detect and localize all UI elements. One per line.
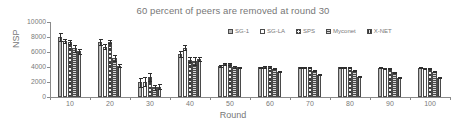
bar[interactable] — [428, 68, 432, 97]
bar[interactable] — [298, 67, 302, 97]
bar[interactable] — [308, 68, 312, 97]
error-bar — [140, 78, 141, 87]
bar[interactable] — [268, 67, 272, 97]
bar[interactable] — [232, 67, 236, 97]
chart-title: 60 percent of peers are removed at round… — [0, 5, 466, 16]
legend-item[interactable]: Myconet — [326, 28, 356, 34]
error-bar-cap — [73, 45, 77, 46]
error-bar-cap — [68, 40, 72, 41]
x-tick-label: 60 — [255, 100, 285, 107]
legend-swatch-icon — [296, 29, 301, 34]
x-tick-label: 90 — [375, 100, 405, 107]
legend-label: SG-LA — [267, 28, 285, 34]
error-bar-cap — [68, 44, 72, 45]
bar[interactable] — [237, 67, 241, 97]
bar[interactable] — [188, 60, 192, 98]
bar[interactable] — [117, 66, 121, 98]
bar[interactable] — [218, 66, 222, 97]
bar[interactable] — [183, 48, 187, 98]
bar[interactable] — [432, 72, 436, 97]
x-axis-tick — [370, 97, 371, 100]
bar[interactable] — [178, 54, 182, 98]
bar-group: 20 — [98, 22, 122, 97]
legend-item[interactable]: X-NET — [367, 28, 392, 34]
x-axis-tick — [170, 97, 171, 100]
error-bar-cap — [438, 78, 442, 79]
bar[interactable] — [108, 42, 112, 98]
bar-group: 10 — [58, 22, 82, 97]
legend-item[interactable]: SPS — [296, 28, 315, 34]
error-bar-cap — [78, 49, 82, 50]
bar[interactable] — [258, 67, 262, 97]
bar[interactable] — [357, 77, 361, 97]
legend-swatch-icon — [326, 29, 331, 34]
bar[interactable] — [77, 51, 81, 97]
bar[interactable] — [352, 71, 356, 97]
error-bar-cap — [108, 43, 112, 44]
x-axis-tick — [210, 97, 211, 100]
error-bar-cap — [198, 57, 202, 58]
error-bar-cap — [313, 71, 317, 72]
bar[interactable] — [348, 68, 352, 97]
y-tick-mark — [47, 37, 50, 38]
bar[interactable] — [277, 72, 281, 98]
x-axis-tick — [330, 97, 331, 100]
error-bar-cap — [158, 89, 162, 90]
legend-item[interactable]: SG-LA — [260, 28, 285, 34]
error-bar-cap — [433, 72, 437, 73]
legend-item[interactable]: SG-1 — [228, 28, 249, 34]
bar[interactable] — [112, 58, 116, 97]
bar[interactable] — [343, 67, 347, 97]
error-bar — [145, 77, 146, 86]
error-bar-cap — [99, 39, 103, 40]
error-bar-cap — [63, 39, 67, 40]
bar[interactable] — [437, 78, 441, 98]
bar[interactable] — [383, 68, 387, 97]
x-axis-tick — [290, 97, 291, 100]
bar[interactable] — [397, 78, 401, 98]
bar[interactable] — [317, 75, 321, 97]
bar[interactable] — [312, 71, 316, 97]
error-bar-cap — [183, 45, 187, 46]
bar[interactable] — [103, 47, 107, 97]
bar[interactable] — [378, 68, 382, 97]
y-tick-label: 10000 — [8, 18, 46, 25]
bar[interactable] — [72, 48, 76, 97]
error-bar-cap — [108, 40, 112, 41]
bar[interactable] — [263, 67, 267, 97]
x-axis-tick — [410, 97, 411, 100]
y-tick-mark — [47, 22, 50, 23]
bar[interactable] — [418, 68, 422, 97]
x-tick-label: 40 — [175, 100, 205, 107]
x-axis-tick — [130, 97, 131, 100]
bar[interactable] — [272, 69, 276, 97]
bar[interactable] — [388, 69, 392, 98]
error-bar — [195, 57, 196, 65]
error-bar-cap — [198, 61, 202, 62]
bar[interactable] — [58, 37, 62, 97]
bar[interactable] — [223, 64, 227, 97]
x-axis-tick — [50, 97, 51, 100]
bar[interactable] — [392, 72, 396, 97]
error-bar-cap — [113, 55, 117, 56]
bar[interactable] — [68, 42, 72, 97]
bar[interactable] — [192, 61, 196, 97]
x-axis-tick — [90, 97, 91, 100]
bar[interactable] — [303, 67, 307, 97]
y-tick-label: 0 — [8, 93, 46, 100]
bar[interactable] — [197, 59, 201, 97]
legend-label: SPS — [303, 28, 315, 34]
bar[interactable] — [338, 67, 342, 97]
error-bar-cap — [59, 33, 63, 34]
x-tick-label: 100 — [415, 100, 445, 107]
bar[interactable] — [63, 41, 67, 97]
bar-group: 40 — [178, 22, 202, 97]
error-bar-cap — [183, 50, 187, 51]
error-bar-cap — [388, 69, 392, 70]
bar[interactable] — [228, 64, 232, 97]
error-bar-cap — [428, 69, 432, 70]
y-tick-label: 4000 — [8, 63, 46, 70]
chart-legend: SG-1SG-LASPSMyconetX-NET — [228, 28, 392, 34]
bar[interactable] — [423, 69, 427, 98]
bar[interactable] — [98, 42, 102, 97]
